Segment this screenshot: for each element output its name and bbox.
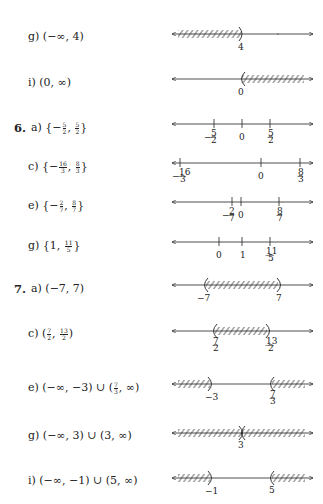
answer-text: i) (0, ∞)	[28, 76, 71, 90]
text: {−	[45, 121, 61, 134]
fraction: 132	[60, 328, 68, 341]
part-label: e)	[28, 199, 39, 212]
fraction: 73	[114, 382, 118, 395]
svg-text:3: 3	[270, 396, 276, 406]
svg-text:−1: −1	[205, 486, 218, 496]
text: (	[42, 327, 46, 340]
text: , ∞)	[119, 381, 139, 394]
svg-text:3: 3	[298, 174, 304, 184]
tick-label: 0	[238, 87, 244, 97]
text: }	[77, 199, 84, 212]
problem-number: 6.	[14, 121, 26, 135]
fraction: 72	[47, 328, 51, 341]
svg-text:0: 0	[258, 171, 264, 181]
number-line: − 163 0 83	[170, 153, 315, 193]
answer-7e: e) (−∞, −3) ∪ (73, ∞) −3 73	[0, 381, 323, 421]
number-line: −1 5	[170, 463, 315, 503]
number-line: −7 7	[170, 270, 315, 310]
part-label: c)	[28, 160, 38, 173]
part-label: c)	[28, 327, 38, 340]
answer-5i: i) (0, ∞) 0	[0, 76, 323, 116]
text: )	[69, 327, 73, 340]
svg-text:3: 3	[238, 440, 244, 450]
interval-notation: (−∞, −1) ∪ (5, ∞)	[39, 474, 137, 487]
answer-text: c) (72, 132)	[28, 327, 73, 341]
part-label: e)	[28, 381, 39, 394]
fraction: 83	[76, 161, 80, 174]
text: {−	[42, 160, 58, 173]
problem-number: 7.	[14, 282, 26, 296]
answer-text: i) (−∞, −1) ∪ (5, ∞)	[28, 474, 137, 488]
text: ,	[64, 199, 71, 212]
answer-text: e) {−27, 87}	[28, 199, 84, 213]
fraction: 52	[75, 122, 79, 135]
text: ,	[52, 327, 59, 340]
fraction: 52	[63, 122, 67, 135]
fraction: 87	[72, 200, 76, 213]
svg-text:0: 0	[239, 132, 245, 142]
answer-7c: c) (72, 132) 72 132	[0, 327, 323, 367]
svg-text:7: 7	[229, 213, 235, 223]
svg-text:5: 5	[268, 253, 274, 263]
interval-notation: (−7, 7)	[45, 282, 84, 295]
answer-text: e) (−∞, −3) ∪ (73, ∞)	[28, 381, 139, 395]
text: }	[73, 239, 80, 252]
text: {1,	[43, 239, 64, 252]
svg-text:2: 2	[268, 135, 274, 145]
part-label: g)	[28, 429, 39, 442]
interval-notation: (−∞, 3) ∪ (3, ∞)	[43, 429, 132, 442]
svg-text:1: 1	[240, 250, 246, 260]
number-line: 0	[170, 63, 315, 103]
text: }	[80, 121, 87, 134]
answer-text: g) (−∞, 4)	[28, 30, 84, 44]
interval-notation: (−∞, 4)	[43, 30, 84, 43]
part-label: g)	[28, 30, 39, 43]
fraction: 163	[59, 161, 67, 174]
answer-text: g) (−∞, 3) ∪ (3, ∞)	[28, 429, 132, 443]
part-label: i)	[28, 76, 36, 89]
answer-text: c) {−163, 83}	[28, 160, 88, 174]
svg-text:2: 2	[213, 343, 219, 353]
answer-text: a) {−52, 52}	[31, 121, 87, 135]
text: }	[81, 160, 88, 173]
part-label: g)	[28, 239, 39, 252]
fraction: 115	[65, 240, 73, 253]
svg-text:−3: −3	[205, 392, 219, 402]
text: ,	[68, 160, 75, 173]
svg-text:2: 2	[211, 135, 217, 145]
svg-text:7: 7	[276, 293, 282, 303]
interval-notation: (0, ∞)	[39, 76, 71, 89]
svg-text:7: 7	[277, 213, 283, 223]
svg-text:0: 0	[216, 250, 222, 260]
text: {−	[42, 199, 58, 212]
svg-text:−7: −7	[197, 293, 211, 303]
number-line: − 27 0 87	[170, 192, 315, 232]
fraction: 27	[60, 200, 64, 213]
text: ,	[67, 121, 74, 134]
part-label: a)	[31, 121, 42, 134]
text: (−∞, −3) ∪ (	[42, 381, 113, 394]
number-line: − 52 0 52	[170, 114, 315, 154]
svg-text:0: 0	[238, 210, 244, 220]
svg-text:5: 5	[269, 485, 275, 495]
svg-text:2: 2	[268, 343, 274, 353]
number-line: 4	[170, 17, 315, 57]
part-label: a)	[31, 282, 42, 295]
answer-text: g) {1, 115}	[28, 239, 80, 253]
number-line: 0 1 115	[170, 232, 315, 272]
number-line: 3	[170, 418, 315, 458]
svg-text:3: 3	[180, 174, 186, 184]
number-line: 72 132	[170, 316, 315, 356]
answer-text: a) (−7, 7)	[31, 282, 84, 296]
number-line: −3 73	[170, 369, 315, 409]
part-label: i)	[28, 474, 36, 487]
answer-7i: i) (−∞, −1) ∪ (5, ∞) −1 5	[0, 474, 323, 504]
tick-label: 4	[238, 42, 244, 52]
